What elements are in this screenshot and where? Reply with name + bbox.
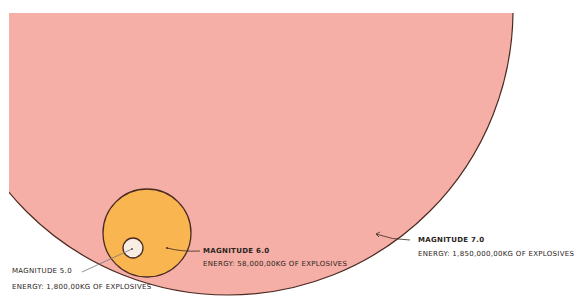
magnitude-6-circle xyxy=(103,189,191,277)
magnitude-7-energy: ENERGY: 1,850,000,00KG OF EXPLOSIVES xyxy=(418,250,574,259)
magnitude-7-title: MAGNITUDE 7.0 xyxy=(418,236,484,245)
magnitude-6-title: MAGNITUDE 6.0 xyxy=(203,247,269,256)
magnitude-5-title: MAGNITUDE 5.0 xyxy=(12,267,72,276)
magnitude-5-circle xyxy=(123,238,143,258)
magnitude-5-energy: ENERGY: 1,800,00KG OF EXPLOSIVES xyxy=(12,283,152,292)
magnitude-6-energy: ENERGY: 58,000,00KG OF EXPLOSIVES xyxy=(203,260,347,269)
